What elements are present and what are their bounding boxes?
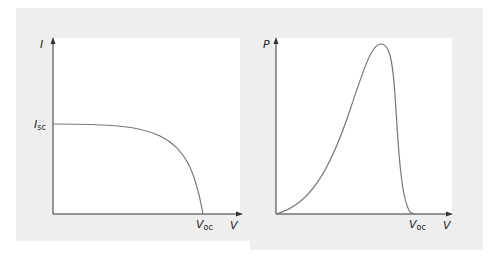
left-y-axis-label: I <box>40 38 43 51</box>
left-axes <box>53 42 238 214</box>
diagram-canvas: I Isc Voc V P Voc V <box>0 0 496 261</box>
right-axes <box>276 42 448 214</box>
right-y-axis-label: P <box>263 38 270 51</box>
pv-curve <box>276 44 414 214</box>
iv-curve <box>53 124 203 214</box>
left-x-axis-label: V <box>230 219 239 232</box>
right-voc-label: Voc <box>409 218 426 232</box>
left-y-arrow-icon <box>51 37 56 44</box>
left-voc-label: Voc <box>196 218 213 232</box>
right-x-axis-label: V <box>443 219 452 232</box>
right-y-arrow-icon <box>274 37 279 44</box>
left-x-arrow-icon <box>236 212 243 217</box>
right-x-arrow-icon <box>446 212 453 217</box>
isc-label: Isc <box>34 118 46 132</box>
